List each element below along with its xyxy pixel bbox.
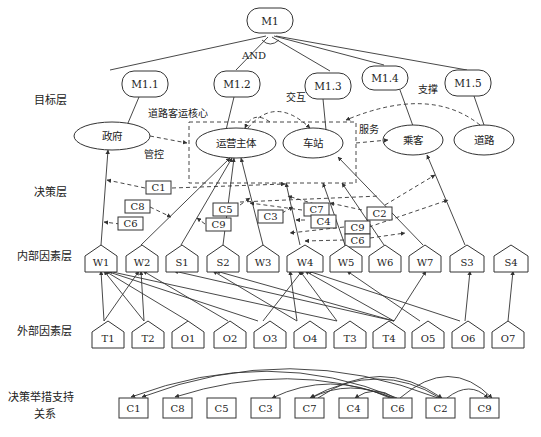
internal-w5: W5 — [330, 245, 362, 272]
actor-operator: 运营主体 — [196, 128, 276, 158]
decision-c3: C3 — [258, 210, 283, 223]
core-label: 道路客运核心 — [148, 107, 208, 119]
goal-node-m1-5: M1.5 — [445, 70, 491, 96]
actor-station: 车站 — [283, 128, 343, 158]
svg-text:O7: O7 — [501, 333, 516, 344]
internal-w1: W1 — [85, 245, 117, 272]
internal-w2: W2 — [126, 245, 158, 272]
external-layer-label: 外部因素层 — [17, 324, 72, 338]
svg-text:M1.3: M1.3 — [314, 80, 341, 92]
actor-nodes: 政府 运营主体 车站 乘客 道路 — [74, 122, 514, 158]
root-label: M1 — [261, 15, 278, 27]
decision-c8: C8 — [125, 200, 150, 213]
svg-text:O2: O2 — [223, 333, 238, 344]
svg-text:T4: T4 — [382, 333, 395, 344]
svg-text:C9: C9 — [211, 219, 225, 230]
svg-text:C6: C6 — [350, 235, 364, 246]
internal-s3: S3 — [450, 245, 484, 272]
svg-text:W1: W1 — [93, 257, 110, 268]
internal-w4: W4 — [287, 245, 323, 272]
svg-text:C8: C8 — [170, 403, 184, 414]
root-goal-edges — [110, 36, 467, 71]
svg-text:T3: T3 — [343, 333, 356, 344]
actor-road: 道路 — [454, 125, 514, 155]
svg-text:W6: W6 — [377, 257, 394, 268]
svg-text:道路: 道路 — [474, 134, 495, 146]
svg-text:T1: T1 — [101, 333, 114, 344]
support-boxes: C1 C8 C5 C3 C7 C4 C6 C2 C9 — [119, 398, 499, 418]
control-label: 管控 — [144, 148, 164, 160]
decision-c9: C9 — [206, 218, 231, 231]
svg-text:W5: W5 — [338, 257, 355, 268]
support-c5: C5 — [207, 398, 236, 418]
decision-c6: C6 — [118, 217, 143, 230]
svg-text:车站: 车站 — [303, 137, 324, 149]
external-t4: T4 — [373, 321, 405, 348]
svg-text:S4: S4 — [504, 257, 517, 268]
internal-s4: S4 — [494, 245, 528, 272]
decision-c2: C2 — [367, 207, 392, 220]
support-c9: C9 — [470, 398, 499, 418]
external-o7: O7 — [492, 321, 524, 348]
goal-layer-label: 目标层 — [34, 93, 67, 107]
svg-text:C1: C1 — [126, 403, 140, 414]
svg-text:M1.5: M1.5 — [454, 77, 481, 89]
internal-s2: S2 — [207, 245, 239, 272]
internal-layer-label: 内部因素层 — [17, 249, 72, 263]
svg-text:O1: O1 — [181, 333, 196, 344]
svg-text:W7: W7 — [417, 257, 434, 268]
decision-c6b: C6 — [345, 234, 370, 247]
external-o4: O4 — [294, 321, 326, 348]
svg-text:C7: C7 — [302, 403, 316, 414]
svg-text:S3: S3 — [460, 257, 473, 268]
svg-text:T2: T2 — [141, 333, 154, 344]
svg-text:C2: C2 — [433, 403, 447, 414]
decision-layer-label: 决策层 — [34, 185, 67, 199]
internal-factors: W1 W2 S1 S2 W3 W4 W5 W6 W7 S3 S4 — [85, 245, 528, 272]
external-t2: T2 — [132, 321, 164, 348]
svg-text:M1.2: M1.2 — [223, 78, 250, 90]
goal-node-m1-2: M1.2 — [214, 71, 260, 97]
support-c6: C6 — [383, 398, 412, 418]
external-t3: T3 — [334, 321, 366, 348]
support-label: 支撑 — [418, 83, 438, 95]
svg-text:C6: C6 — [123, 218, 137, 229]
service-label: 服务 — [359, 123, 379, 135]
svg-text:O4: O4 — [303, 333, 318, 344]
decision-c4: C4 — [311, 215, 336, 228]
svg-text:C9: C9 — [477, 403, 491, 414]
svg-text:C5: C5 — [218, 204, 232, 215]
svg-text:W4: W4 — [297, 257, 314, 268]
svg-text:S1: S1 — [175, 257, 188, 268]
svg-text:政府: 政府 — [102, 130, 122, 142]
support-c2: C2 — [426, 398, 455, 418]
support-c8: C8 — [163, 398, 192, 418]
svg-text:O3: O3 — [263, 333, 278, 344]
support-layer-label-1: 决策举措支持 — [8, 390, 74, 404]
support-c4: C4 — [339, 398, 368, 418]
decision-support-diagram: 目标层 决策层 内部因素层 外部因素层 决策举措支持 关系 M1 AND M1.… — [0, 0, 541, 437]
support-c7: C7 — [295, 398, 324, 418]
svg-text:C1: C1 — [151, 182, 165, 193]
svg-text:C5: C5 — [214, 403, 228, 414]
external-t1: T1 — [92, 321, 124, 348]
support-c1: C1 — [119, 398, 148, 418]
svg-text:S2: S2 — [216, 257, 229, 268]
svg-text:C9: C9 — [350, 222, 364, 233]
internal-s1: S1 — [166, 245, 198, 272]
external-o2: O2 — [214, 321, 246, 348]
interact-label: 交互 — [286, 91, 306, 103]
svg-text:W3: W3 — [255, 257, 272, 268]
support-c3: C3 — [251, 398, 280, 418]
svg-text:C2: C2 — [372, 208, 386, 219]
svg-text:C7: C7 — [309, 204, 323, 215]
svg-text:M1.4: M1.4 — [371, 72, 399, 84]
svg-text:W2: W2 — [134, 257, 151, 268]
internal-w7: W7 — [409, 245, 441, 272]
svg-text:O5: O5 — [421, 333, 436, 344]
external-o6: O6 — [452, 321, 484, 348]
goal-node-m1-4: M1.4 — [362, 66, 408, 90]
external-internal-edges — [101, 271, 513, 321]
svg-text:C8: C8 — [130, 201, 144, 212]
goal-node-m1-1: M1.1 — [122, 71, 168, 97]
